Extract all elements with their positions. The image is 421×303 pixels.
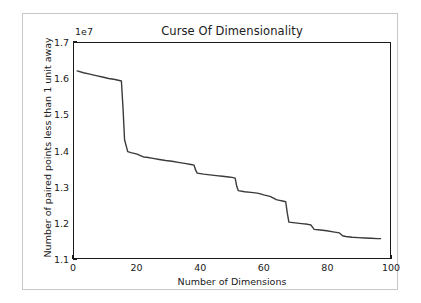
chart-title: Curse Of Dimensionality	[73, 24, 391, 38]
x-tick-label: 80	[312, 262, 342, 273]
y-tick-label: 1.2	[35, 217, 69, 228]
x-axis-label: Number of Dimensions	[73, 276, 391, 287]
y-tick-label: 1.5	[35, 109, 69, 120]
x-tick-label: 60	[249, 262, 279, 273]
y-tick-label: 1.6	[35, 73, 69, 84]
x-tick-label: 20	[122, 262, 152, 273]
plot-area	[74, 43, 390, 258]
y-tick-label: 1.3	[35, 181, 69, 192]
y-tick-label: 1.7	[35, 37, 69, 48]
plot-axes	[73, 42, 391, 259]
x-tick-label: 40	[185, 262, 215, 273]
data-series-line	[77, 71, 380, 239]
x-tick-label: 0	[58, 262, 88, 273]
figure-container: Curse Of Dimensionality 1e7 Number of pa…	[22, 13, 398, 290]
x-tick-label: 100	[376, 262, 406, 273]
y-tick-label: 1.4	[35, 145, 69, 156]
y-axis-offset-text: 1e7	[75, 26, 93, 37]
